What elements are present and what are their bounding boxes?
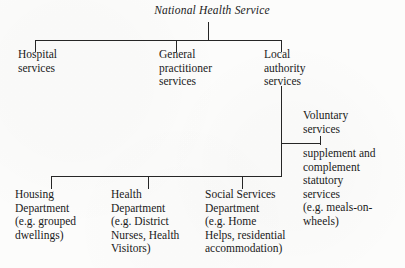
node-hospital-services: Hospital services <box>18 48 138 75</box>
node-label-root: National Health Service <box>137 4 287 18</box>
node-housing-department: Housing Department (e.g. grouped dwellin… <box>15 188 115 242</box>
node-label-hospital: Hospital services <box>18 48 138 75</box>
node-label-voluntary-detail: supplement and complement statutory serv… <box>303 147 405 228</box>
node-voluntary-services: Voluntary services <box>303 109 403 136</box>
node-health-department: Health Department (e.g. District Nurses,… <box>111 188 211 256</box>
node-national-health-service: National Health Service <box>137 4 287 18</box>
node-local-authority-services: Local authority services <box>264 48 359 89</box>
node-label-health: Health Department (e.g. District Nurses,… <box>111 188 211 256</box>
node-label-voluntary: Voluntary services <box>303 109 403 136</box>
node-label-general-practitioner: General practitioner services <box>159 48 274 89</box>
node-general-practitioner-services: General practitioner services <box>159 48 274 89</box>
node-social-services-department: Social Services Department (e.g. Home He… <box>205 188 310 256</box>
node-label-local-authority: Local authority services <box>264 48 359 89</box>
node-label-housing: Housing Department (e.g. grouped dwellin… <box>15 188 115 242</box>
node-label-social-services: Social Services Department (e.g. Home He… <box>205 188 310 256</box>
organisation-chart: National Health Service Hospital service… <box>0 0 405 268</box>
node-voluntary-services-detail: supplement and complement statutory serv… <box>303 147 405 228</box>
